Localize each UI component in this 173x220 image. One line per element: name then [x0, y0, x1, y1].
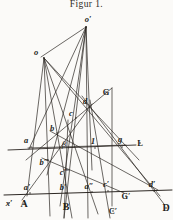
- label-c-dblprime: c″: [60, 168, 68, 177]
- label-a-prime: a′: [24, 183, 31, 192]
- point-marker-o-prime: [85, 26, 87, 28]
- label-B: B: [63, 202, 70, 212]
- label-c: c: [69, 109, 73, 118]
- label-L: L: [137, 139, 143, 148]
- point-marker-one: [94, 147, 96, 149]
- label-o-prime: o′: [85, 15, 92, 24]
- label-A: A: [20, 199, 27, 209]
- figure-panel: Figur 1. o′oGdcbβa1gLb″c″a′b′a″c′d′x′ABG…: [0, 0, 173, 220]
- point-marker-a-dblprime: [91, 191, 93, 193]
- label-b-prime: b′: [60, 183, 67, 192]
- point-marker-d: [88, 106, 90, 108]
- point-marker-c: [75, 117, 77, 119]
- label-one: 1: [91, 137, 96, 146]
- label-beta: β: [62, 140, 66, 149]
- label-o: o: [34, 48, 38, 57]
- point-marker-b: [56, 132, 58, 134]
- label-b: b: [50, 124, 54, 133]
- label-G: G: [103, 88, 110, 97]
- point-marker-b-prime: [65, 192, 67, 194]
- point-marker-a: [30, 146, 32, 148]
- label-g: g: [118, 135, 122, 144]
- point-marker-d-prime: [153, 190, 155, 192]
- label-C-prime: C′: [109, 207, 118, 216]
- label-b-dblprime: b″: [40, 158, 49, 167]
- label-c-prime: c′: [103, 180, 109, 189]
- label-a: a: [24, 136, 28, 145]
- ray-o-b2: [44, 58, 50, 216]
- ray-o-a: [27, 58, 44, 196]
- point-marker-c-prime: [107, 190, 109, 192]
- ray-oprime-c: [64, 27, 86, 218]
- point-marker-a-prime: [29, 192, 31, 194]
- point-marker-o: [43, 57, 45, 59]
- label-d-prime: d′: [149, 180, 156, 189]
- label-G-prime: G′: [121, 192, 130, 201]
- point-marker-g: [121, 146, 123, 148]
- label-x-prime: x′: [6, 199, 13, 208]
- label-D: D: [162, 203, 169, 213]
- label-a-dblprime: a″: [85, 182, 94, 191]
- label-d: d: [83, 97, 87, 106]
